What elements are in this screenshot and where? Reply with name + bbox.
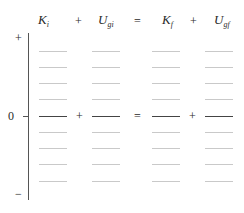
ki-zero-line[interactable]	[39, 116, 67, 117]
ugf-bar-slot[interactable]	[205, 132, 233, 133]
ki-bar-slot[interactable]	[39, 99, 67, 100]
ugf-bar-slot[interactable]	[205, 148, 233, 149]
kf-bar-slot[interactable]	[152, 51, 180, 52]
ugf-zero-line[interactable]	[205, 116, 233, 117]
term-k-initial: Ki	[38, 12, 49, 33]
kf-bar-slot[interactable]	[152, 148, 180, 149]
equals-operator: =	[134, 14, 141, 28]
ugi-zero-line[interactable]	[92, 116, 120, 117]
term-ug-initial: Ugi	[98, 12, 114, 33]
vertical-axis	[28, 33, 29, 200]
ugf-bar-slot[interactable]	[205, 67, 233, 68]
ki-bar-slot[interactable]	[39, 83, 67, 84]
kf-bar-slot[interactable]	[152, 164, 180, 165]
kf-bar-slot[interactable]	[152, 83, 180, 84]
kf-bar-slot[interactable]	[152, 67, 180, 68]
ugi-bar-slot[interactable]	[92, 83, 120, 84]
ki-bar-slot[interactable]	[39, 164, 67, 165]
ki-bar-slot[interactable]	[39, 51, 67, 52]
axis-positive-label: +	[15, 32, 22, 44]
ugf-bar-slot[interactable]	[205, 164, 233, 165]
ugf-bar-slot[interactable]	[205, 181, 233, 182]
ugi-bar-slot[interactable]	[92, 67, 120, 68]
plus-operator: +	[75, 14, 82, 28]
kf-bar-slot[interactable]	[152, 99, 180, 100]
zero-row-plus: +	[76, 109, 83, 123]
ugf-bar-slot[interactable]	[205, 99, 233, 100]
ki-bar-slot[interactable]	[39, 181, 67, 182]
ugi-bar-slot[interactable]	[92, 99, 120, 100]
ugi-bar-slot[interactable]	[92, 132, 120, 133]
axis-zero-label: 0	[8, 110, 14, 122]
axis-negative-label: −	[15, 188, 22, 200]
term-ug-final: Ugf	[214, 12, 230, 33]
term-k-final: Kf	[162, 12, 173, 33]
plus-operator: +	[190, 14, 197, 28]
zero-row-equals: =	[134, 109, 141, 123]
ki-bar-slot[interactable]	[39, 148, 67, 149]
ugi-bar-slot[interactable]	[92, 51, 120, 52]
ugf-bar-slot[interactable]	[205, 83, 233, 84]
zero-tick	[23, 116, 28, 117]
zero-row-plus: +	[189, 109, 196, 123]
ugi-bar-slot[interactable]	[92, 164, 120, 165]
ugi-bar-slot[interactable]	[92, 148, 120, 149]
ugi-bar-slot[interactable]	[92, 181, 120, 182]
ki-bar-slot[interactable]	[39, 67, 67, 68]
ugf-bar-slot[interactable]	[205, 51, 233, 52]
ki-bar-slot[interactable]	[39, 132, 67, 133]
kf-bar-slot[interactable]	[152, 181, 180, 182]
kf-bar-slot[interactable]	[152, 132, 180, 133]
kf-zero-line[interactable]	[152, 116, 180, 117]
